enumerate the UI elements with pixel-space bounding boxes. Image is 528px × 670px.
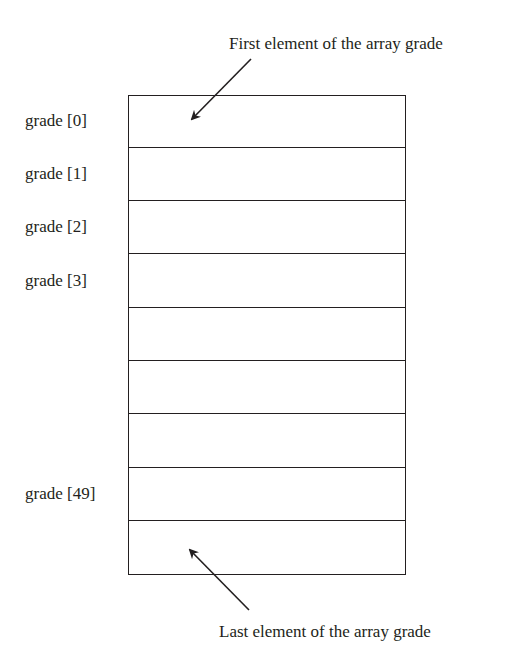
index-label: grade [0] <box>25 112 87 129</box>
array-cell <box>129 201 405 254</box>
array-cell <box>129 361 405 414</box>
array-cell <box>129 415 405 468</box>
array-grade-box <box>128 95 406 575</box>
index-label: grade [3] <box>25 272 87 289</box>
array-cell <box>129 308 405 361</box>
first-element-caption: First element of the array grade <box>229 35 443 52</box>
index-label: grade [2] <box>25 218 87 235</box>
array-cell <box>129 148 405 201</box>
array-cell <box>129 521 405 574</box>
index-label: grade [49] <box>25 485 95 502</box>
array-cell <box>129 255 405 308</box>
last-element-caption: Last element of the array grade <box>219 623 431 640</box>
array-cell <box>129 95 405 148</box>
array-cell <box>129 468 405 521</box>
index-label: grade [1] <box>25 165 87 182</box>
